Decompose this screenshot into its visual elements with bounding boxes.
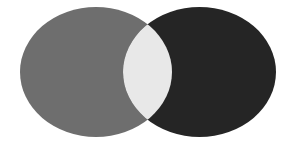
- venn-diagram: [0, 0, 291, 148]
